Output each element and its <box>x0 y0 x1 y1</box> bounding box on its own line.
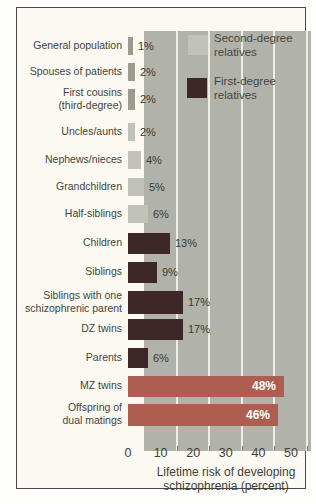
value-label: 4% <box>146 151 162 169</box>
axis-tickmark-10 <box>177 446 178 451</box>
bar-siblings-with-one-schizophrenic-parent <box>128 291 183 314</box>
row-label: Half-siblings <box>19 207 122 220</box>
value-label: 46% <box>128 404 270 426</box>
axis-tickmark-40 <box>274 446 275 451</box>
figure: General population1%Spouses of patients2… <box>0 0 316 504</box>
bar-children <box>128 233 170 254</box>
row-label: Grandchildren <box>19 180 122 193</box>
row-label: Parents <box>19 351 122 364</box>
bar-grandchildren <box>128 178 144 196</box>
row-label: Siblings with one schizophrenic parent <box>19 289 122 315</box>
value-label: 13% <box>175 233 197 254</box>
value-label: 2% <box>140 123 156 141</box>
value-label: 1% <box>138 37 154 55</box>
bar-half-siblings <box>128 205 148 223</box>
row-label: Uncles/aunts <box>19 125 122 138</box>
row-label: DZ twins <box>19 322 122 335</box>
value-label: 17% <box>188 319 210 340</box>
row-label: Children <box>19 236 122 249</box>
legend-label-first-degree: First-degree relatives <box>214 75 276 102</box>
bar-dz-twins <box>128 319 183 340</box>
axis-tickmark-20 <box>209 446 210 451</box>
gridline-50 <box>306 31 308 451</box>
value-label: 2% <box>140 63 156 81</box>
value-label: 5% <box>149 178 165 196</box>
row-label: General population <box>19 39 122 52</box>
x-tick-label-0: 0 <box>116 446 140 460</box>
value-label: 48% <box>128 376 276 397</box>
legend-swatch-second-degree <box>188 35 208 55</box>
row-label: First cousins (third-degree) <box>19 86 122 112</box>
value-label: 17% <box>188 291 210 314</box>
axis-tickmark-30 <box>242 446 243 451</box>
legend-swatch-first-degree <box>187 78 207 98</box>
x-axis-title: Lifetime risk of developing schizophreni… <box>121 465 316 493</box>
legend-label-second-degree: Second-degree relatives <box>214 32 293 59</box>
x-tick-label-50: 50 <box>279 446 303 460</box>
x-tick-label-20: 20 <box>181 446 205 460</box>
row-label: Nephews/nieces <box>19 153 122 166</box>
x-tick-label-30: 30 <box>214 446 238 460</box>
bar-spouses-of-patients <box>128 63 135 81</box>
row-label: MZ twins <box>19 379 122 392</box>
value-label: 2% <box>140 89 156 110</box>
bar-first-cousins-third-degree- <box>128 89 135 110</box>
x-tick-label-40: 40 <box>246 446 270 460</box>
bar-siblings <box>128 262 157 283</box>
value-label: 6% <box>153 348 169 368</box>
value-label: 6% <box>153 205 169 223</box>
value-label: 9% <box>162 262 178 283</box>
row-label: Siblings <box>19 265 122 278</box>
bar-general-population <box>128 37 133 55</box>
row-label: Offspring of dual matings <box>19 401 122 427</box>
bar-uncles-aunts <box>128 123 135 141</box>
row-label: Spouses of patients <box>19 65 122 78</box>
figure-frame: General population1%Spouses of patients2… <box>16 7 306 489</box>
x-tick-label-10: 10 <box>149 446 173 460</box>
bar-nephews-nieces <box>128 151 141 169</box>
axis-tickmark-50 <box>307 446 308 451</box>
bar-parents <box>128 348 148 368</box>
